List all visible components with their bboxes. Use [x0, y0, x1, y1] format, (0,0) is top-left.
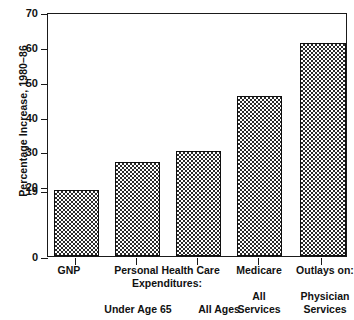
- x-label-outlays-on: Outlays on:: [288, 264, 354, 277]
- x-sublabel-under-age-65: Under Age 65: [92, 303, 184, 316]
- bar-under-age-65: [115, 162, 160, 256]
- y-tick-label-70: 70: [26, 7, 38, 19]
- bar-physician-services: [300, 43, 347, 256]
- x-sublabel-services-outlays: Services: [288, 303, 354, 316]
- y-tick-20: 20: [41, 188, 48, 189]
- bar-series: [48, 14, 346, 256]
- y-tick-40: 40: [41, 119, 48, 120]
- y-tick-label-19: 19: [26, 185, 38, 197]
- y-tick-30: 30: [41, 153, 48, 154]
- y-tick-19: 19: [41, 192, 48, 193]
- plot-area: 706050403020190: [47, 13, 347, 257]
- x-sublabel-physician: Physician: [288, 290, 354, 303]
- y-tick-label-40: 40: [26, 112, 38, 124]
- y-tick-label-0: 0: [32, 251, 38, 263]
- y-tick-50: 50: [41, 84, 48, 85]
- bar-chart: Percentage Increase, 1980–86 70605040302…: [0, 0, 354, 320]
- y-tick-label-30: 30: [26, 146, 38, 158]
- y-tick-label-50: 50: [26, 77, 38, 89]
- bar-all-ages: [176, 151, 221, 256]
- x-label-gnp: GNP: [39, 264, 99, 277]
- x-label-expenditures: Expenditures:: [96, 277, 238, 290]
- y-tick-label-60: 60: [26, 42, 38, 54]
- x-sublabel-all: All: [222, 290, 296, 303]
- y-tick-0: 0: [41, 258, 48, 259]
- x-sublabel-services-medicare: Services: [222, 303, 296, 316]
- x-label-personal-health-care: Personal Health Care: [96, 264, 238, 277]
- x-label-medicare: Medicare: [222, 264, 296, 277]
- y-tick-60: 60: [41, 49, 48, 50]
- y-tick-70: 70: [41, 14, 48, 15]
- bar-all-services: [237, 96, 282, 256]
- bar-gnp: [54, 190, 99, 256]
